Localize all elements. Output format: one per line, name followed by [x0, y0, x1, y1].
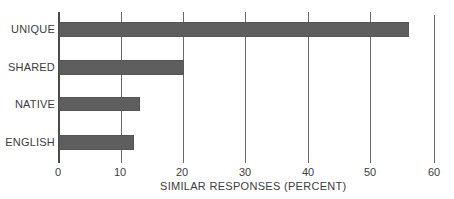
x-tick-40: 40: [293, 166, 323, 178]
x-tick-10: 10: [105, 166, 135, 178]
x-tick-30: 30: [230, 166, 260, 178]
bar-native: [59, 97, 140, 111]
bar-english: [59, 135, 134, 150]
category-label-shared: SHARED: [8, 61, 55, 73]
bar-shared: [59, 60, 184, 75]
bar-unique: [59, 22, 409, 37]
x-axis-title: SIMILAR RESPONSES (PERCENT): [160, 180, 347, 192]
x-tick-0: 0: [43, 166, 73, 178]
bar-chart: UNIQUE SHARED NATIVE ENGLISH 0 10 20 30 …: [0, 0, 454, 199]
category-label-english: ENGLISH: [5, 136, 55, 148]
category-label-unique: UNIQUE: [11, 23, 55, 35]
gridline-60: [434, 15, 435, 163]
x-tick-60: 60: [419, 166, 449, 178]
category-label-native: NATIVE: [15, 98, 55, 110]
x-tick-20: 20: [167, 166, 197, 178]
x-tick-50: 50: [355, 166, 385, 178]
